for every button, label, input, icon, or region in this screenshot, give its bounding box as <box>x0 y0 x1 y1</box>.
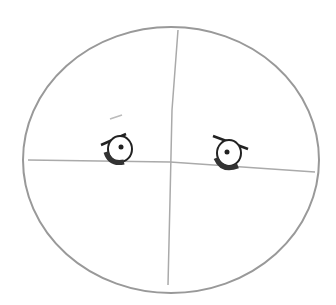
sketch-canvas <box>0 0 336 305</box>
eyebrow-mark <box>110 115 122 119</box>
right-eye <box>213 136 248 168</box>
left-eye <box>101 134 132 163</box>
vertical-guide-line <box>168 30 178 285</box>
